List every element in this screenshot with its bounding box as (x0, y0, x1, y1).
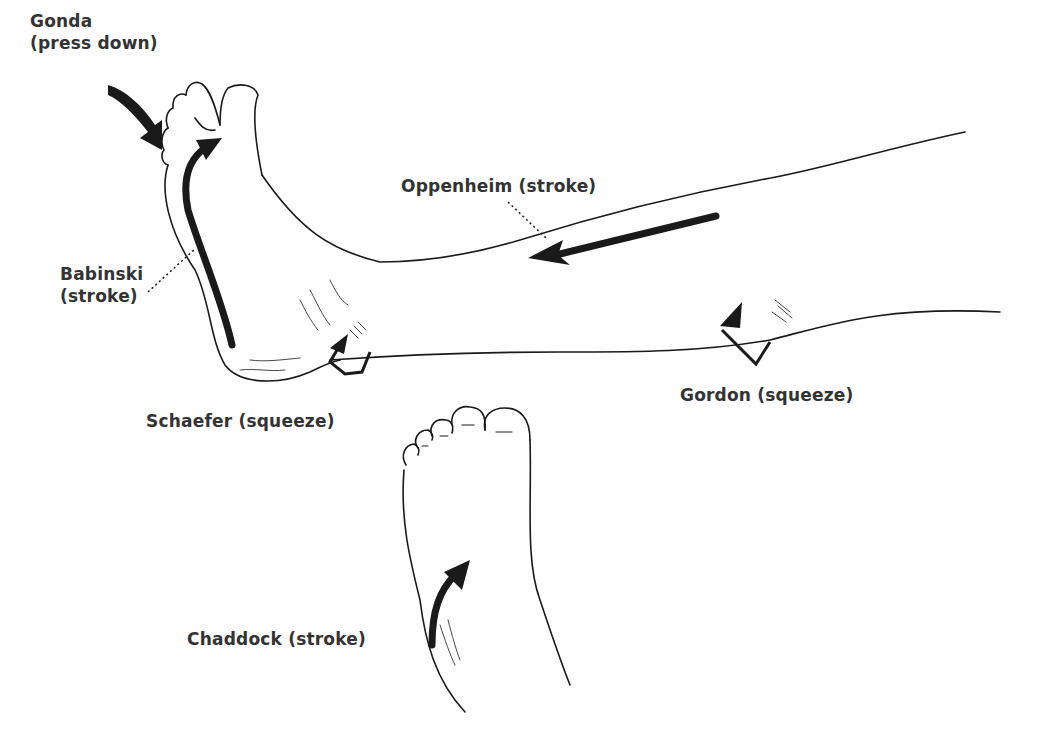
gonda-label: Gonda (press down) (30, 10, 158, 54)
gordon-label: Gordon (squeeze) (680, 384, 854, 406)
schaefer-arrow (330, 334, 370, 374)
babinski-action: (stroke) (60, 285, 143, 307)
babinski-leader (148, 248, 196, 292)
top-foot-outline (403, 470, 465, 712)
babinski-name: Babinski (60, 263, 143, 285)
big-toe (484, 408, 530, 440)
schaefer-label: Schaefer (squeeze) (146, 410, 335, 432)
gonda-arrow (108, 85, 162, 150)
gonda-name: Gonda (30, 10, 158, 32)
oppenheim-label: Oppenheim (stroke) (401, 175, 596, 197)
leg-lower-outline (330, 311, 1000, 360)
chaddock-label: Chaddock (stroke) (187, 628, 366, 650)
gordon-arrow (720, 302, 770, 364)
toe-outline (186, 82, 220, 125)
foot-outline (165, 165, 340, 381)
leg-illustration (0, 0, 1041, 756)
gonda-action: (press down) (30, 32, 158, 54)
babinski-label: Babinski (stroke) (60, 263, 143, 307)
reflex-diagram: Gonda (press down) Oppenheim (stroke) Ba… (0, 0, 1041, 756)
